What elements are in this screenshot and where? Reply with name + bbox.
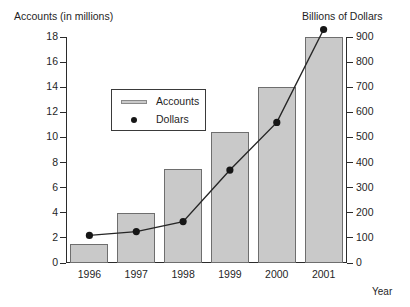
right-tick-label: 500 [356, 131, 374, 142]
left-tick-mark [60, 37, 66, 38]
left-tick-mark [60, 237, 66, 238]
left-axis-title: Accounts (in millions) [14, 10, 113, 22]
bar-1999 [211, 132, 249, 263]
x-tick-label-1999: 1999 [205, 268, 255, 280]
bar-2000 [258, 87, 296, 263]
left-tick-mark [60, 137, 66, 138]
left-tick-label: 14 [46, 81, 58, 92]
left-tick-label: 12 [46, 106, 58, 117]
left-tick-mark [60, 162, 66, 163]
right-tick-label: 800 [356, 56, 374, 67]
left-tick-mark [60, 62, 66, 63]
left-tick-label: 18 [46, 31, 58, 42]
right-tick-label: 100 [356, 232, 374, 243]
legend-item-dollars: Dollars [112, 111, 205, 129]
right-tick-mark [347, 37, 353, 38]
left-tick-mark [60, 87, 66, 88]
right-tick-label: 900 [356, 31, 374, 42]
right-tick-mark [347, 212, 353, 213]
bar-2001 [305, 37, 343, 263]
left-tick-mark [60, 112, 66, 113]
right-tick-label: 200 [356, 207, 374, 218]
legend-item-accounts: Accounts [112, 93, 205, 111]
bar-swatch-icon [121, 100, 147, 104]
bar-1997 [117, 213, 155, 263]
dollars-point-2001 [320, 26, 327, 33]
right-tick-mark [347, 162, 353, 163]
left-tick-label: 10 [46, 131, 58, 142]
right-tick-mark [347, 112, 353, 113]
left-tick-label: 0 [52, 257, 58, 268]
chart-figure: Accounts (in millions) Billions of Dolla… [0, 0, 410, 307]
left-tick-label: 8 [52, 157, 58, 168]
left-tick-label: 4 [52, 207, 58, 218]
right-tick-mark [347, 263, 353, 264]
right-tick-mark [347, 87, 353, 88]
x-tick-label-2000: 2000 [252, 268, 302, 280]
left-tick-label: 16 [46, 56, 58, 67]
dot-marker-icon [131, 117, 137, 123]
legend-label-dollars: Dollars [156, 113, 189, 125]
right-tick-mark [347, 137, 353, 138]
right-tick-mark [347, 62, 353, 63]
left-tick-label: 6 [52, 182, 58, 193]
x-axis-title: Year [372, 286, 392, 297]
bar-1996 [70, 244, 108, 263]
x-tick-label-1996: 1996 [64, 268, 114, 280]
right-tick-label: 400 [356, 157, 374, 168]
left-tick-mark [60, 263, 66, 264]
right-tick-label: 600 [356, 106, 374, 117]
left-tick-mark [60, 187, 66, 188]
bar-1998 [164, 169, 202, 263]
left-tick-label: 2 [52, 232, 58, 243]
left-tick-mark [60, 212, 66, 213]
x-tick-label-2001: 2001 [299, 268, 349, 280]
x-tick-label-1998: 1998 [158, 268, 208, 280]
chart-legend: Accounts Dollars [111, 89, 206, 131]
x-tick-label-1997: 1997 [111, 268, 161, 280]
right-tick-mark [347, 237, 353, 238]
right-tick-label: 300 [356, 182, 374, 193]
right-tick-label: 0 [356, 257, 362, 268]
legend-label-accounts: Accounts [156, 95, 199, 107]
right-tick-mark [347, 187, 353, 188]
right-axis-title: Billions of Dollars [302, 10, 383, 22]
right-tick-label: 700 [356, 81, 374, 92]
